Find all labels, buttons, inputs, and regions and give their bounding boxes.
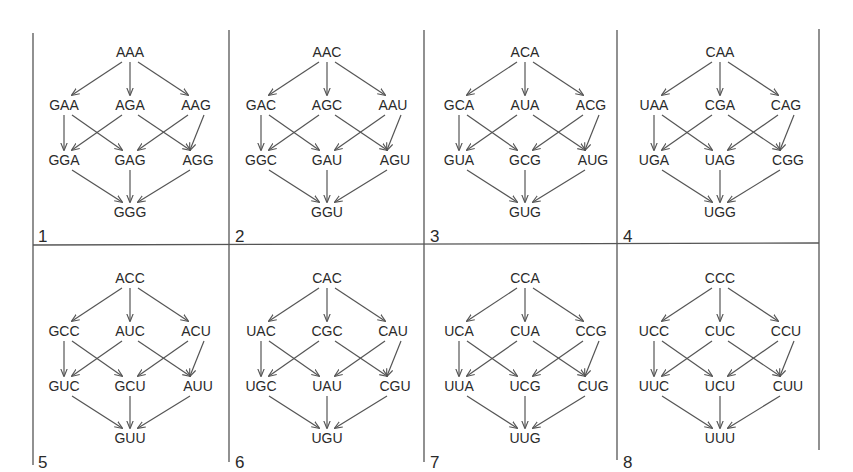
codon-bottom: UUU: [705, 430, 735, 446]
codon-low: GGC: [245, 152, 277, 168]
arrow-top-to-mid2: [728, 288, 778, 321]
codon-low: UAG: [705, 152, 735, 168]
codon-top: CAA: [706, 44, 735, 60]
arrow-top-to-mid2: [533, 288, 583, 321]
arrow-mid2-to-low2: [585, 341, 599, 376]
codon-low: CUU: [773, 378, 803, 394]
panel-3: ACAGCAAUAACGGUAGCGAUGGUG3: [430, 44, 608, 246]
codon-low: CUG: [577, 378, 608, 394]
arrow-mid2-to-low2: [387, 341, 401, 376]
arrow-mid2-to-low2: [387, 115, 401, 150]
codon-mid: ACU: [181, 323, 211, 339]
panel-6: CACUACCGCCAUUGCUAUCGUUGU6: [235, 270, 411, 472]
codon-low: GAG: [114, 152, 145, 168]
codon-mid: AUA: [511, 97, 540, 113]
arrow-top-to-mid2: [728, 62, 778, 95]
codon-low: UCU: [705, 378, 735, 394]
panel-number: 7: [430, 453, 439, 472]
codon-mid: UCA: [444, 323, 474, 339]
arrow-top-to-mid2: [335, 288, 385, 321]
codon-top: CCA: [510, 270, 540, 286]
arrow-top-to-mid0: [269, 62, 319, 95]
codon-low: CGG: [772, 152, 804, 168]
codon-mid: CAU: [378, 323, 408, 339]
codon-low: GUC: [48, 378, 79, 394]
arrow-mid2-to-low2: [780, 115, 794, 150]
codon-bottom: UUG: [509, 430, 540, 446]
codon-mid: AAU: [379, 97, 408, 113]
arrow-top-to-mid0: [467, 62, 517, 95]
arrow-low2-to-bottom: [138, 170, 190, 202]
codon-mid: AUC: [115, 323, 145, 339]
panel-number: 8: [623, 453, 632, 472]
arrow-top-to-mid0: [269, 288, 319, 321]
arrow-low0-to-bottom: [72, 396, 122, 428]
codon-low: AUU: [183, 378, 213, 394]
panel-grid: [33, 29, 819, 465]
arrow-low0-to-bottom: [72, 170, 122, 202]
codon-top: ACC: [115, 270, 145, 286]
codon-low: UUC: [639, 378, 669, 394]
codon-mid: GCA: [444, 97, 475, 113]
arrow-top-to-mid0: [467, 288, 517, 321]
codon-low: GGA: [48, 152, 80, 168]
codon-mid: CCG: [575, 323, 606, 339]
arrow-low0-to-bottom: [269, 396, 319, 428]
codon-mid: CAG: [771, 97, 801, 113]
codon-mid: GCC: [48, 323, 79, 339]
codon-bottom: GUU: [114, 430, 145, 446]
panel-number: 4: [623, 227, 632, 246]
arrow-top-to-mid2: [138, 62, 188, 95]
panel-5: ACCGCCAUCACUGUCGCUAUUGUU5: [38, 270, 213, 472]
arrow-low2-to-bottom: [335, 396, 387, 428]
codon-bottom: GGG: [114, 204, 147, 220]
panel-number: 5: [38, 453, 47, 472]
codon-mid: AAG: [181, 97, 211, 113]
codon-low: UAU: [312, 378, 342, 394]
codon-mid: CUA: [510, 323, 540, 339]
codon-top: AAA: [116, 44, 145, 60]
codon-lattice-figure: AAAGAAAGAAAGGGAGAGAGGGGG1AACGACAGCAAUGGC…: [0, 0, 853, 472]
arrow-low2-to-bottom: [728, 170, 780, 202]
arrow-top-to-mid0: [72, 288, 122, 321]
arrow-low0-to-bottom: [467, 170, 517, 202]
codon-mid: GAA: [49, 97, 79, 113]
arrow-low2-to-bottom: [533, 170, 585, 202]
panel-number: 1: [38, 227, 47, 246]
panel-1: AAAGAAAGAAAGGGAGAGAGGGGG1: [38, 44, 214, 246]
codon-mid: AGA: [115, 97, 145, 113]
arrow-low2-to-bottom: [335, 170, 387, 202]
arrow-low2-to-bottom: [533, 396, 585, 428]
codon-low: CGU: [379, 378, 410, 394]
arrow-mid2-to-low2: [780, 341, 794, 376]
codon-low: UCG: [509, 378, 540, 394]
divider-row: [33, 243, 819, 245]
codon-bottom: GGU: [311, 204, 343, 220]
codon-mid: GAC: [246, 97, 276, 113]
arrow-top-to-mid2: [138, 288, 188, 321]
arrow-low2-to-bottom: [728, 396, 780, 428]
codon-low: UGC: [245, 378, 276, 394]
codon-low: GUA: [444, 152, 475, 168]
panel-7: CCAUCACUACCGUUAUCGCUGUUG7: [430, 270, 609, 472]
arrow-mid2-to-low2: [585, 115, 599, 150]
codon-mid: UCC: [639, 323, 669, 339]
panel-8: CCCUCCCUCCCUUUCUCUCUUUUU8: [623, 270, 803, 472]
codon-top: AAC: [313, 44, 342, 60]
arrow-top-to-mid2: [533, 62, 583, 95]
panel-4: CAAUAACGACAGUGAUAGCGGUGG4: [623, 44, 804, 246]
codon-bottom: GUG: [509, 204, 541, 220]
arrow-low0-to-bottom: [662, 170, 712, 202]
codon-bottom: UGU: [311, 430, 342, 446]
codon-mid: CGA: [705, 97, 736, 113]
codon-mid: CCU: [771, 323, 801, 339]
codon-bottom: UGG: [704, 204, 736, 220]
arrow-top-to-mid0: [662, 288, 712, 321]
arrow-top-to-mid0: [662, 62, 712, 95]
arrow-low2-to-bottom: [138, 396, 190, 428]
arrow-top-to-mid2: [335, 62, 385, 95]
codon-mid: CUC: [705, 323, 735, 339]
codon-mid: UAA: [640, 97, 669, 113]
codon-low: GCU: [114, 378, 145, 394]
codon-low: UGA: [639, 152, 670, 168]
